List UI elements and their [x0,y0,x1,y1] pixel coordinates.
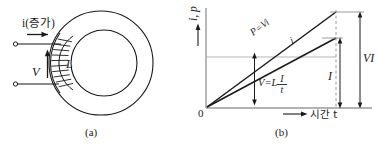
voltage-annotation-denominator: t [281,84,284,95]
toroid-inner-circle [71,30,137,96]
voltage-annotation: V=L I t [258,73,287,95]
current-line [207,38,336,107]
x-axis-direction-arrow [283,112,308,117]
terminal-bottom [13,82,17,86]
panel-a-caption: (a) [85,126,98,139]
panel-b-graph: i, p 시간 t P=Vi i V=L I t [187,6,375,139]
figure-pair: i(증가) V L (a) i, p 시간 t P= [0,0,378,145]
voltage-annotation-numerator: I [279,73,284,84]
current-arrow [27,32,48,37]
y-axis-direction-arrow [196,24,201,47]
current-bracket [322,38,343,109]
power-line [207,12,336,107]
current-line-label: i [288,35,296,46]
terminal-top [13,42,17,46]
current-label: i(증가) [22,17,55,30]
voltage-annotation-prefix: V=L [258,77,277,88]
power-bracket-label: VI [363,51,375,65]
y-axis-label: i, p [187,6,200,21]
panel-a-toroid: i(증가) V L (a) [13,11,153,139]
panel-b-caption: (b) [275,126,288,139]
x-axis-label: 시간 t [310,108,337,120]
origin-label: 0 [198,107,204,119]
voltage-label: V [32,65,41,79]
power-line-label: P=Vi [247,16,271,38]
current-bracket-label: I [327,69,333,83]
power-bracket [330,12,364,109]
inductance-label: L [65,57,73,71]
voltage-gap-arrow [252,53,257,106]
